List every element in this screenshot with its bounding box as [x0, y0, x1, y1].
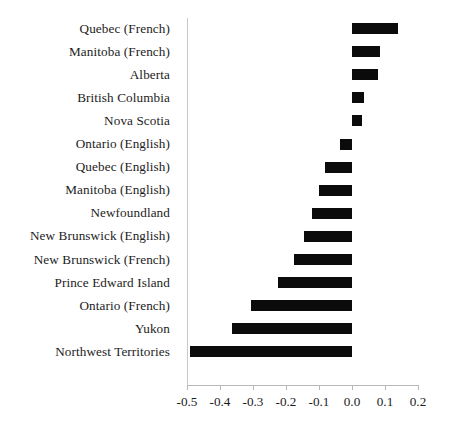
- bar: [352, 115, 362, 126]
- bar: [312, 208, 352, 219]
- x-tick-label: 0.2: [393, 394, 443, 410]
- bar: [340, 139, 352, 150]
- category-label: Manitoba (English): [65, 183, 170, 196]
- category-label: Quebec (English): [76, 160, 170, 173]
- bar: [352, 23, 398, 34]
- category-label: British Columbia: [77, 91, 170, 104]
- bar: [278, 277, 352, 288]
- x-tick-mark: [187, 385, 188, 390]
- plot-area: [187, 14, 418, 385]
- bar: [352, 92, 364, 103]
- x-tick-mark: [286, 385, 287, 390]
- category-label: Manitoba (French): [69, 45, 170, 58]
- bar-chart: Quebec (French)Manitoba (French)AlbertaB…: [0, 0, 450, 435]
- category-label: New Brunswick (French): [34, 253, 170, 266]
- bar: [352, 69, 378, 80]
- category-label: Newfoundland: [90, 206, 170, 219]
- category-label: Yukon: [135, 322, 170, 335]
- bar: [352, 46, 380, 57]
- bar: [251, 300, 352, 311]
- zero-reference-line: [187, 18, 188, 385]
- category-label: Northwest Territories: [55, 345, 170, 358]
- x-axis-line: [187, 385, 418, 386]
- category-label: New Brunswick (English): [30, 229, 170, 242]
- x-tick-mark: [352, 385, 353, 390]
- category-label: Ontario (English): [76, 137, 170, 150]
- x-tick-mark: [220, 385, 221, 390]
- bar: [190, 346, 352, 357]
- bar: [294, 254, 352, 265]
- category-label: Quebec (French): [80, 22, 170, 35]
- x-tick-mark: [319, 385, 320, 390]
- x-tick-mark: [385, 385, 386, 390]
- category-label: Prince Edward Island: [54, 276, 170, 289]
- bar: [304, 231, 352, 242]
- x-tick-mark: [418, 385, 419, 390]
- bar: [325, 162, 352, 173]
- category-label: Ontario (French): [79, 299, 170, 312]
- x-tick-mark: [253, 385, 254, 390]
- category-label: Alberta: [130, 68, 170, 81]
- bar: [319, 185, 352, 196]
- category-label: Nova Scotia: [104, 114, 170, 127]
- bar: [232, 323, 352, 334]
